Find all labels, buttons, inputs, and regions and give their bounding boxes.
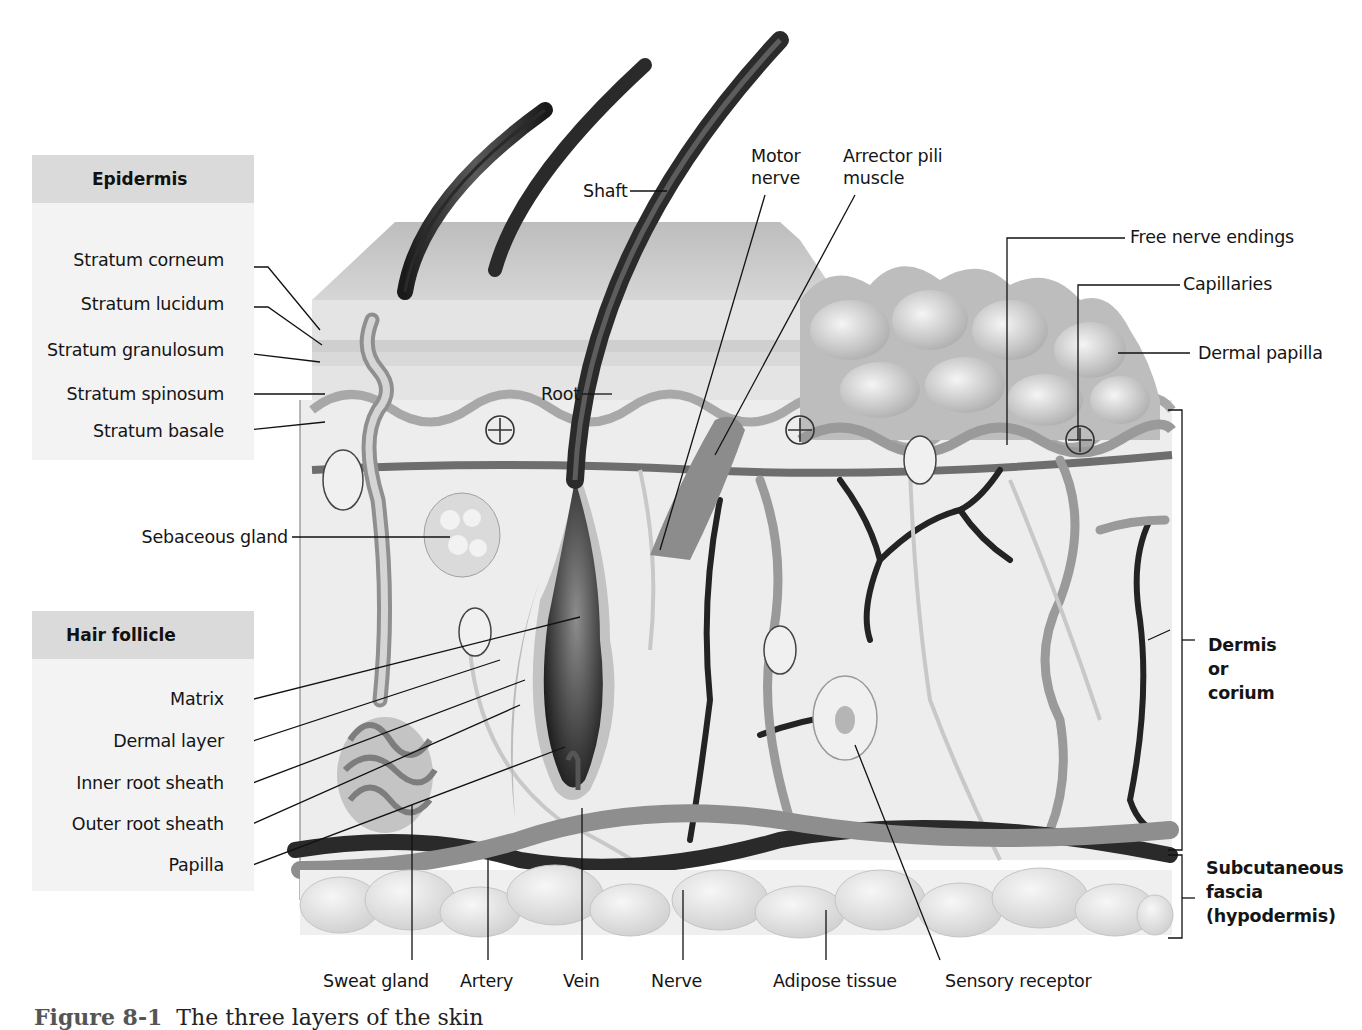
label-capillaries: Capillaries — [1183, 274, 1272, 295]
label-dermis-line1: Dermis — [1208, 635, 1276, 656]
sebaceous-gland — [424, 493, 500, 577]
adipose-tissue — [300, 865, 1173, 938]
label-dermal-layer: Dermal layer — [113, 731, 224, 752]
label-stratum-basale: Stratum basale — [93, 421, 224, 442]
label-matrix: Matrix — [170, 689, 224, 710]
label-papilla: Papilla — [168, 855, 224, 876]
label-vein: Vein — [563, 971, 600, 992]
label-motor-nerve-line2: nerve — [751, 168, 800, 189]
label-stratum-corneum: Stratum corneum — [73, 250, 224, 271]
hair-follicle-panel-title: Hair follicle — [32, 611, 254, 659]
label-sebaceous-gland: Sebaceous gland — [142, 527, 288, 548]
label-adipose-tissue: Adipose tissue — [773, 971, 897, 992]
label-stratum-spinosum: Stratum spinosum — [67, 384, 224, 405]
label-free-nerve-endings: Free nerve endings — [1130, 227, 1294, 248]
label-arrector-pili-line1: Arrector pili — [843, 146, 942, 167]
label-shaft: Shaft — [583, 181, 628, 202]
label-dermis-line2: or — [1208, 659, 1228, 680]
label-root: Root — [541, 384, 580, 405]
label-subcutaneous-line1: Subcutaneous — [1206, 858, 1343, 879]
label-artery: Artery — [460, 971, 513, 992]
label-nerve: Nerve — [651, 971, 702, 992]
label-sweat-gland: Sweat gland — [323, 971, 429, 992]
label-stratum-lucidum: Stratum lucidum — [81, 294, 224, 315]
label-dermal-papilla: Dermal papilla — [1198, 343, 1323, 364]
label-dermis-line3: corium — [1208, 683, 1275, 704]
skin-surface-top — [312, 222, 840, 300]
label-subcutaneous-line2: fascia — [1206, 882, 1263, 903]
figure-caption: Figure 8-1The three layers of the skin — [34, 1004, 483, 1030]
label-arrector-pili-line2: muscle — [843, 168, 904, 189]
epidermis-panel-title: Epidermis — [32, 155, 254, 203]
label-subcutaneous-line3: (hypodermis) — [1206, 906, 1336, 927]
label-inner-root-sheath: Inner root sheath — [76, 773, 224, 794]
label-sensory-receptor: Sensory receptor — [945, 971, 1092, 992]
figure-caption-text: The three layers of the skin — [176, 1005, 483, 1030]
label-stratum-granulosum: Stratum granulosum — [47, 340, 224, 361]
dermal-papilla-bumps — [800, 266, 1172, 452]
figure-number: Figure 8-1 — [34, 1004, 162, 1030]
label-outer-root-sheath: Outer root sheath — [72, 814, 224, 835]
label-motor-nerve-line1: Motor — [751, 146, 801, 167]
